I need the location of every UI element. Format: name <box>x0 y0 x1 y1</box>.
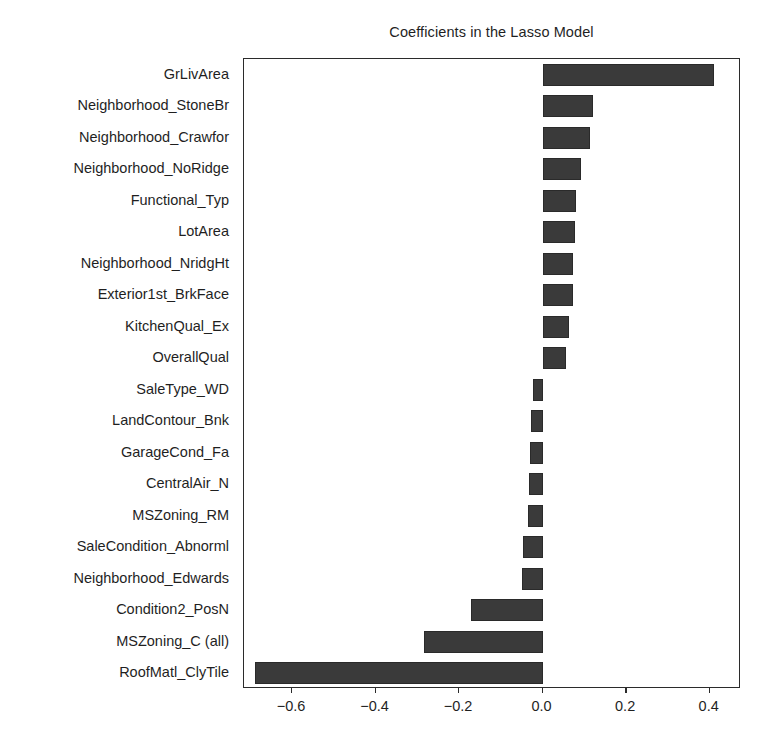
bar <box>533 379 543 401</box>
bar <box>543 347 566 369</box>
x-axis-tick-mark <box>709 688 710 693</box>
category-label: KitchenQual_Ex <box>0 318 236 334</box>
category-label: MSZoning_C (all) <box>0 633 236 649</box>
category-label: RoofMatl_ClyTile <box>0 664 236 680</box>
bar <box>543 253 573 275</box>
category-label: Neighborhood_Crawfor <box>0 129 236 145</box>
bar-series <box>244 59 739 687</box>
category-label: SaleType_WD <box>0 381 236 397</box>
category-label: Functional_Typ <box>0 192 236 208</box>
bar <box>255 662 542 684</box>
bar <box>543 158 581 180</box>
x-axis-tick-mark <box>291 688 292 693</box>
category-label: Neighborhood_NoRidge <box>0 160 236 176</box>
bar <box>543 221 576 243</box>
category-label: Neighborhood_NridgHt <box>0 255 236 271</box>
x-axis-tick-mark <box>375 688 376 693</box>
category-label: Condition2_PosN <box>0 601 236 617</box>
chart-title: Coefficients in the Lasso Model <box>243 24 740 40</box>
category-label: Exterior1st_BrkFace <box>0 286 236 302</box>
category-label: MSZoning_RM <box>0 507 236 523</box>
category-label: Neighborhood_Edwards <box>0 570 236 586</box>
x-axis-tick-label: −0.2 <box>444 698 473 714</box>
x-axis-tick-mark <box>542 688 543 693</box>
bar <box>531 410 543 432</box>
category-label: GrLivArea <box>0 66 236 82</box>
bar <box>529 473 542 495</box>
x-axis-tick-label: 0.4 <box>699 698 719 714</box>
bar <box>543 316 570 338</box>
lasso-coefficients-figure: Coefficients in the Lasso Model GrLivAre… <box>0 0 776 750</box>
category-label: SaleCondition_Abnorml <box>0 538 236 554</box>
category-label: LotArea <box>0 223 236 239</box>
bar <box>522 568 543 590</box>
x-axis-tick-mark <box>625 688 626 693</box>
bar <box>543 284 573 306</box>
x-axis-tick-label: −0.4 <box>360 698 389 714</box>
category-label: CentralAir_N <box>0 475 236 491</box>
category-label: LandContour_Bnk <box>0 412 236 428</box>
bar <box>523 536 542 558</box>
category-label: Neighborhood_StoneBr <box>0 97 236 113</box>
category-label: OverallQual <box>0 349 236 365</box>
bar <box>530 442 543 464</box>
bar <box>528 505 543 527</box>
category-axis-labels: GrLivAreaNeighborhood_StoneBrNeighborhoo… <box>0 58 236 688</box>
category-label: GarageCond_Fa <box>0 444 236 460</box>
bar <box>543 190 576 212</box>
bar <box>424 631 542 653</box>
x-axis-tick-label: 0.0 <box>532 698 552 714</box>
bar <box>543 64 714 86</box>
x-axis-tick-label: −0.6 <box>277 698 306 714</box>
bar <box>471 599 542 621</box>
bar <box>543 95 593 117</box>
bar <box>543 127 590 149</box>
x-axis-tick-label: 0.2 <box>615 698 635 714</box>
x-axis-tick-mark <box>458 688 459 693</box>
plot-area <box>243 58 740 688</box>
value-axis: −0.6−0.4−0.20.00.20.4 <box>0 688 776 738</box>
